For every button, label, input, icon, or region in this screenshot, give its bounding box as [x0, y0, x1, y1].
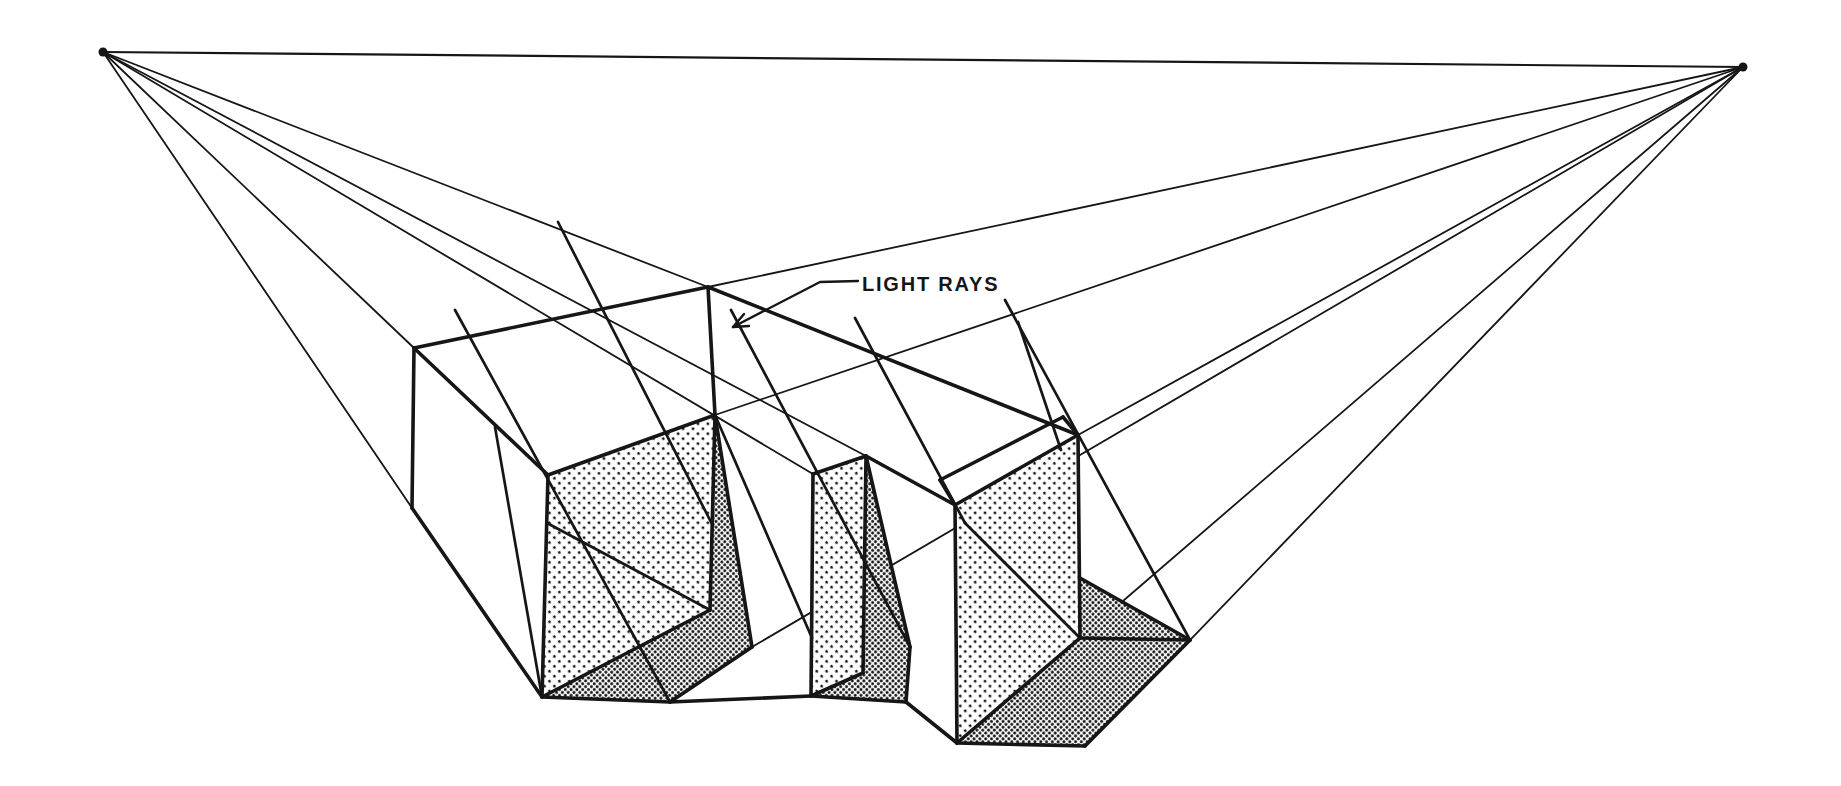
leader-arrowhead-icon: [733, 326, 749, 327]
drawing-sheet: LIGHT RAYS: [0, 0, 1841, 786]
two-point-perspective-shadow-diagram: LIGHT RAYS: [0, 0, 1841, 786]
vanishing-construction-lines-group: [103, 52, 1743, 647]
left-vanishing-point-dot: [99, 48, 108, 57]
horizon-line: [103, 52, 1743, 67]
light-rays-label: LIGHT RAYS: [862, 273, 999, 295]
right-vanishing-point-dot: [1739, 63, 1748, 72]
